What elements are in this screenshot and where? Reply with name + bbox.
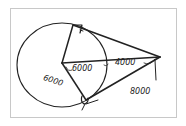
circle	[17, 23, 107, 107]
center-line	[62, 57, 160, 63]
geometry-diagram	[0, 0, 186, 126]
radius-upper	[62, 25, 73, 63]
tangent-upper	[73, 25, 160, 57]
label-tangent-length: 8000	[130, 87, 150, 96]
label-outside-segment: 4000	[115, 58, 135, 67]
label-radius-center: 6000	[72, 64, 92, 73]
